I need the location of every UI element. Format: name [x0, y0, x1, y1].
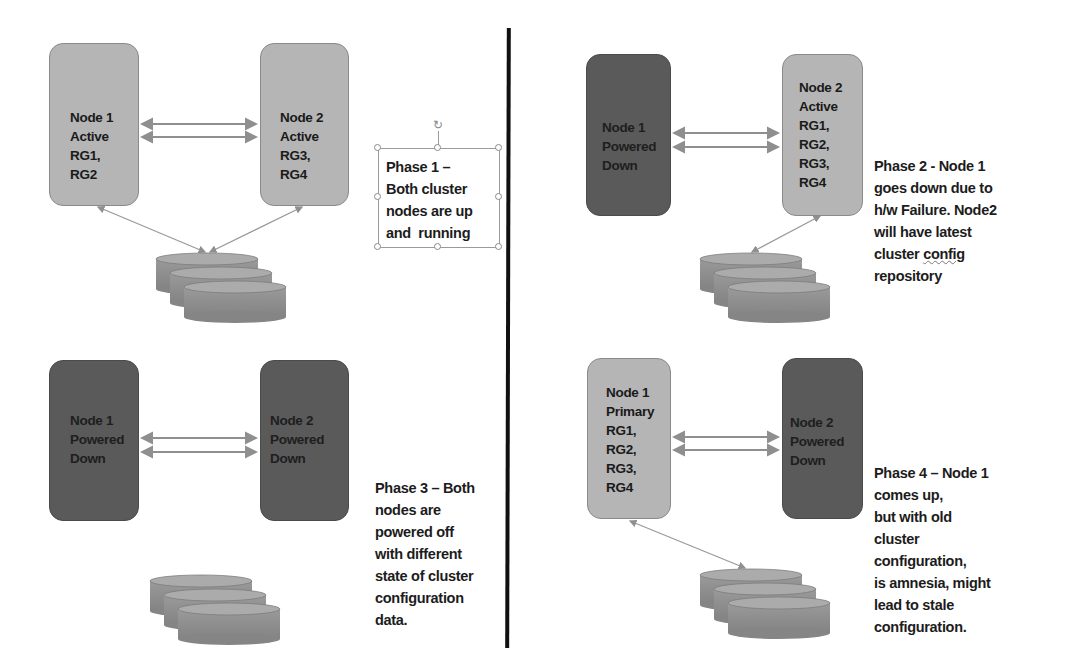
resize-handle[interactable] — [495, 144, 502, 151]
phase1-node1[interactable]: Node 1 Active RG1, RG2 — [49, 43, 139, 206]
phase1-description[interactable]: Phase 1 – Both cluster nodes are up and … — [386, 156, 473, 244]
resize-handle[interactable] — [495, 193, 502, 200]
phase4-node2[interactable]: Node 2 Powered Down — [782, 358, 863, 519]
phase4-heartbeat-arrows — [674, 437, 778, 450]
node-label: Node 1 Primary RG1, RG2, RG3, RG4 — [606, 383, 654, 497]
phase2-storage-link — [752, 216, 820, 252]
node-label: Node 1 Active RG1, RG2 — [70, 108, 113, 184]
resize-handle[interactable] — [434, 243, 441, 250]
phase2-heartbeat-arrows — [674, 133, 778, 147]
phase3-heartbeat-arrows — [142, 438, 256, 452]
node-label: Node 2 Active RG1, RG2, RG3, RG4 — [799, 78, 842, 192]
resize-handle[interactable] — [434, 144, 441, 151]
phase2-storage-icon — [700, 253, 830, 323]
phase1-storage-links — [98, 207, 302, 252]
resize-handle[interactable] — [374, 193, 381, 200]
resize-handle[interactable] — [374, 144, 381, 151]
phase2-node2[interactable]: Node 2 Active RG1, RG2, RG3, RG4 — [782, 54, 863, 216]
node-label: Node 2 Powered Down — [790, 413, 844, 470]
desc-line: goes down due to — [874, 180, 992, 196]
phase1-heartbeat-arrows — [142, 124, 256, 137]
phase4-storage-link — [630, 521, 745, 568]
spellcheck-word: config — [923, 246, 965, 262]
node-label: Node 1 Powered Down — [70, 411, 124, 468]
desc-line: repository — [874, 268, 942, 284]
phase4-storage-icon — [700, 569, 830, 639]
phase3-description: Phase 3 – Both nodes are powered off wit… — [375, 477, 475, 631]
desc-line: Phase 2 - Node 1 — [874, 158, 985, 174]
phase2-node1[interactable]: Node 1 Powered Down — [586, 54, 671, 216]
resize-handle[interactable] — [495, 243, 502, 250]
desc-line: cluster — [874, 246, 923, 262]
phase4-description: Phase 4 – Node 1 comes up, but with old … — [874, 462, 991, 638]
phase4-node1[interactable]: Node 1 Primary RG1, RG2, RG3, RG4 — [587, 358, 671, 519]
phase2-description: Phase 2 - Node 1 goes down due to h/w Fa… — [874, 155, 997, 287]
node-label: Node 1 Powered Down — [602, 118, 656, 175]
phase3-node1[interactable]: Node 1 Powered Down — [49, 360, 139, 521]
phase3-storage-icon — [150, 575, 280, 645]
phase1-node2[interactable]: Node 2 Active RG3, RG4 — [260, 43, 349, 206]
node-label: Node 2 Active RG3, RG4 — [280, 108, 323, 184]
phase1-storage-icon — [156, 253, 286, 323]
phase3-node2[interactable]: Node 2 Powered Down — [260, 360, 349, 521]
rotate-handle-icon[interactable]: ↻ — [432, 119, 444, 131]
desc-line: h/w Failure. Node2 — [874, 202, 997, 218]
desc-line: will have latest — [874, 224, 972, 240]
resize-handle[interactable] — [374, 243, 381, 250]
node-label: Node 2 Powered Down — [270, 411, 324, 468]
rotate-handle-stem — [438, 131, 439, 145]
